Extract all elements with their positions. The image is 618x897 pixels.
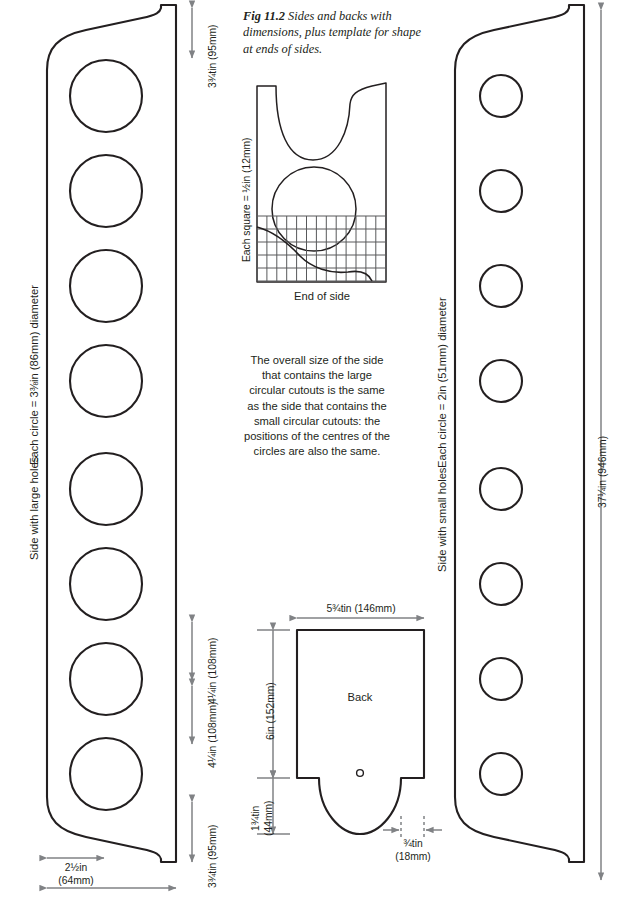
left-dim-foot-width-label: 2½in (64mm) [38, 862, 114, 887]
template-square-label: Each square = ½in (12mm) [241, 138, 254, 262]
figure-caption-number: Fig 11.2 [243, 9, 285, 23]
right-dim-overall-height-label: 37¼in (946mm) [597, 436, 610, 508]
left-dim-spacing-1-label: 4¼in (108mm) [207, 638, 220, 704]
left-side-panel [47, 5, 176, 862]
left-panel-outline [47, 5, 176, 862]
left-panel-name-label: Side with large holes [28, 457, 42, 560]
explanatory-note: The overall size of the side that contai… [243, 353, 391, 460]
end-of-side-template [257, 83, 386, 282]
back-dim-shoulder-label: ¾tin (18mm) [383, 838, 443, 863]
back-panel-outline [297, 630, 424, 834]
left-dim-bottom-gap-label: 3¾tin (95mm) [207, 824, 220, 888]
back-dim-curve-height-label: 1¾tin (44mm) [250, 801, 275, 836]
left-dim-top-gap-label: 3¾tin (95mm) [207, 24, 220, 88]
left-dim-spacing-2-label: 4¼in (108mm) [207, 702, 220, 768]
back-panel [297, 630, 424, 834]
figure-caption: Fig 11.2 Sides and backs with dimensions… [243, 8, 423, 57]
right-panel-outline [455, 5, 584, 862]
back-dim-body-height-label: 6in (152mm) [265, 682, 278, 740]
template-title: End of side [262, 290, 382, 304]
right-panel-name-label: Side with small holes [436, 468, 450, 572]
back-panel-label: Back [330, 691, 390, 705]
right-side-panel [455, 5, 584, 862]
figure-page: Fig 11.2 Sides and backs with dimensions… [0, 0, 618, 897]
back-dim-width-label: 5¾tin (146mm) [300, 603, 422, 616]
right-panel-circle-label: Each circle = 2in (51mm) diameter [436, 297, 450, 468]
left-panel-circle-label: Each circle = 3⅜in (86mm) diameter [28, 285, 42, 465]
